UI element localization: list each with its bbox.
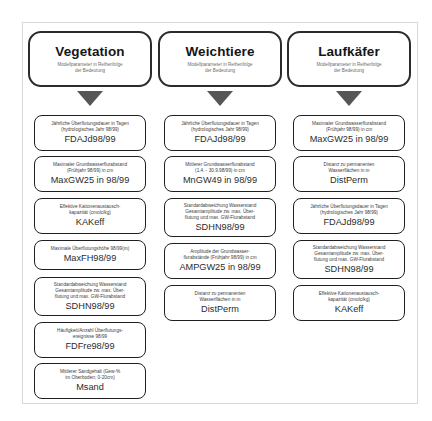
param-box[interactable]: Maximale Überflutungshöhe 98/99(m) MaxFH… <box>34 240 146 270</box>
param-box[interactable]: Effektive Kationenaustausch- kapazität (… <box>293 285 405 321</box>
param-box[interactable]: Mittlerer Grundwasserflurabstand (1.4. -… <box>164 156 276 192</box>
header-subtitle-weichtiere: Modellparameter in Reihenfolge der Bedeu… <box>187 62 252 75</box>
param-box[interactable]: Amplitude der Grundwasser- flurabstände … <box>164 243 276 279</box>
param-desc-line2: kapazität (cmolc/kg) <box>294 297 404 303</box>
header-subtitle-vegetation: Modellparameter in Reihenfolge der Bedeu… <box>57 62 122 75</box>
down-arrow-icon-laufkaefer <box>336 91 362 106</box>
param-desc-line3: flutung und max. GW-Flurabstand <box>294 257 404 263</box>
param-box[interactable]: Mittlerer Sandgehalt (Gew-% im Oberboden… <box>34 363 146 399</box>
param-code: MaxGW25 in 98/99 <box>310 134 389 145</box>
param-code: MaxGW25 in 98/99 <box>51 175 130 186</box>
param-box[interactable]: Jährliche Überflutungsdauer in Tagen (hy… <box>164 115 276 151</box>
header-title-laufkaefer: Laufkäfer <box>318 44 380 59</box>
param-desc-line2: kapazität (cmolc/kg) <box>35 210 145 216</box>
param-code: FDAJd98/99 <box>64 134 115 145</box>
param-code: FDAJd98/99 <box>323 217 374 228</box>
param-box[interactable]: Häufigkeit/Anzahl Überflutungs- ereignis… <box>34 322 146 358</box>
param-box[interactable]: Jährliche Überflutungsdauer in Tagen (hy… <box>293 198 405 234</box>
param-box[interactable]: Maximaler Grundwasserflurabstand (Frühja… <box>34 156 146 192</box>
param-desc-line2: (hydrologisches Jahr 98/99) <box>165 127 275 133</box>
param-code: AMPGW25 in 98/99 <box>179 262 260 273</box>
param-box[interactable]: Standardabweichung Wasserstand Gesamtamp… <box>293 240 405 279</box>
header-subtitle-line2: der Bedeutung <box>316 68 381 74</box>
param-box[interactable]: Jährliche Überflutungsdauer in Tagen (hy… <box>34 115 146 151</box>
param-box[interactable]: Distanz zu permanenten Wasserflächen in … <box>293 156 405 192</box>
param-code: DistPerm <box>201 304 239 315</box>
param-code: KAKeff <box>335 304 363 315</box>
param-desc-line2: flurabstände (Frühjahr 98/99) in cm <box>165 255 275 261</box>
param-box[interactable]: Standardabweichung Wasserstand Gesamtamp… <box>34 277 146 316</box>
param-desc-line2: (hydrologisches Jahr 98/99) <box>294 210 404 216</box>
param-desc-line2: (Frühjahr 98/99) in cm <box>35 168 145 174</box>
column-weichtiere: Weichtiere Modellparameter in Reihenfolg… <box>158 23 282 403</box>
param-desc-line3: flutung und max. GW-Flurabstand <box>35 294 145 300</box>
diagram-frame: Vegetation Modellparameter in Reihenfolg… <box>22 22 418 404</box>
param-code: SDHN98/99 <box>324 264 373 275</box>
param-desc-line2: (Frühjahr 98/99) in cm <box>294 127 404 133</box>
header-box-weichtiere[interactable]: Weichtiere Modellparameter in Reihenfolg… <box>158 31 282 87</box>
param-code: FDFre98/99 <box>65 341 114 352</box>
param-desc-line1: Maximale Überflutungshöhe 98/99(m) <box>35 246 145 252</box>
param-code: Msand <box>76 382 104 393</box>
param-box[interactable]: Distanz zu permanenten Wasserflächen in … <box>164 285 276 321</box>
param-desc-line2: im Oberboden; 0-20cm) <box>35 375 145 381</box>
param-code: KAKeff <box>76 217 104 228</box>
down-arrow-icon-weichtiere <box>207 91 233 106</box>
header-subtitle-line2: der Bedeutung <box>57 68 122 74</box>
param-desc-line2: Wasserflächen in m <box>294 168 404 174</box>
param-desc-line2: Wasserflächen in m <box>165 297 275 303</box>
column-vegetation: Vegetation Modellparameter in Reihenfolg… <box>28 23 152 403</box>
column-laufkaefer: Laufkäfer Modellparameter in Reihenfolge… <box>287 23 411 403</box>
param-desc-line2: (hydrologisches Jahr 98/99) <box>35 127 145 133</box>
param-desc-line2: ereignisse 98/99 <box>35 334 145 340</box>
param-box[interactable]: Effektive Kationenaustausch- kapazität (… <box>34 198 146 234</box>
param-code: FDAJd98/99 <box>194 134 245 145</box>
down-arrow-icon-vegetation <box>77 91 103 106</box>
header-subtitle-laufkaefer: Modellparameter in Reihenfolge der Bedeu… <box>316 62 381 75</box>
param-desc-line2: (1.4. - 30.9.98/99) in cm <box>165 168 275 174</box>
header-box-laufkaefer[interactable]: Laufkäfer Modellparameter in Reihenfolge… <box>287 31 411 87</box>
header-title-vegetation: Vegetation <box>55 44 124 59</box>
param-code: MnGW49 in 98/99 <box>183 175 257 186</box>
param-code: DistPerm <box>330 175 368 186</box>
param-box[interactable]: Maximaler Grundwasserflurabstand (Frühja… <box>293 115 405 151</box>
param-code: MaxFH98/99 <box>64 253 117 264</box>
param-desc-line3: flutung und max. GW-Flurabstand <box>165 215 275 221</box>
param-code: SDHN98/99 <box>65 301 114 312</box>
header-title-weichtiere: Weichtiere <box>185 44 254 59</box>
param-box[interactable]: Standardabweichung Wasserstand Gesamtamp… <box>164 198 276 237</box>
param-code: SDHN98/99 <box>195 222 244 233</box>
header-box-vegetation[interactable]: Vegetation Modellparameter in Reihenfolg… <box>28 31 152 87</box>
header-subtitle-line2: der Bedeutung <box>187 68 252 74</box>
